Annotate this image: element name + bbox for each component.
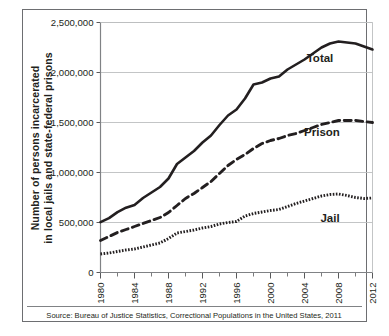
xtick-label: 1988 [163, 283, 174, 304]
xtick-label: 1984 [129, 282, 140, 304]
y-axis-title-line2: in local jails and state-federal prisons [42, 52, 54, 243]
series-line-jail [101, 194, 373, 254]
incarceration-line-chart: 0500,0001,000,0001,500,0002,000,0002,500… [0, 0, 389, 336]
series-label-prison: Prison [304, 126, 340, 138]
ytick-label: 0 [88, 267, 93, 278]
source-note: Source: Bureau of Justice Statistics, Co… [46, 311, 341, 320]
ytick-label: 2,500,000 [51, 17, 94, 28]
xtick-label: 2000 [265, 283, 276, 304]
ytick-label: 1,500,000 [51, 117, 94, 128]
xtick-label: 1980 [95, 283, 106, 304]
xtick-label: 2004 [299, 282, 310, 304]
figure-container: 0500,0001,000,0001,500,0002,000,0002,500… [0, 0, 389, 336]
xtick-label: 1992 [197, 283, 208, 304]
ytick-label: 500,000 [59, 217, 94, 228]
ytick-label: 1,000,000 [51, 167, 94, 178]
series-label-total: Total [307, 52, 334, 64]
xtick-label: 2012 [367, 283, 378, 304]
y-axis-title-line1: Number of persons incarcerated [29, 66, 41, 231]
xtick-label: 2008 [333, 283, 344, 304]
series-label-jail: Jail [320, 212, 339, 224]
ytick-label: 2,000,000 [51, 67, 94, 78]
xtick-label: 1996 [231, 283, 242, 304]
